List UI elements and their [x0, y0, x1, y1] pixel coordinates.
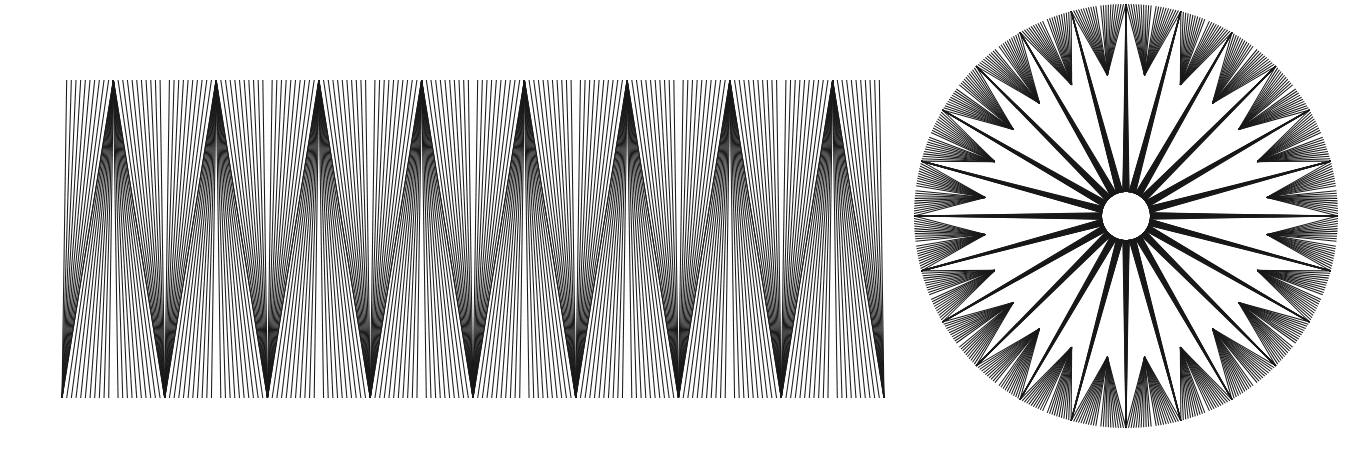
radial-starburst-rosette-panel — [914, 4, 1338, 428]
radial-ray — [1257, 161, 1331, 162]
radial-ray — [1071, 11, 1072, 85]
radial-ray — [1071, 347, 1072, 421]
linear-zigzag-band-panel — [62, 80, 884, 398]
radial-ray — [1180, 11, 1181, 85]
radial-ray — [1180, 347, 1181, 421]
radial-ray — [1257, 270, 1331, 271]
radial-ray — [921, 270, 995, 271]
radial-ray — [921, 161, 995, 162]
figure-canvas — [0, 0, 1359, 470]
line-art-figure — [0, 0, 1359, 470]
